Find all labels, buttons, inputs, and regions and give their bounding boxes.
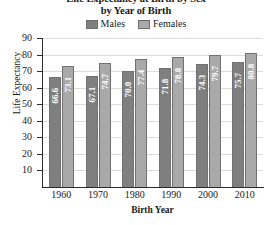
y-tick-label-20: 20 <box>2 149 32 159</box>
x-tick-label-1990: 1990 <box>153 189 190 200</box>
y-tick-50 <box>37 104 42 105</box>
y-tick-30 <box>37 137 42 138</box>
legend-item-males: Males <box>86 19 125 29</box>
bar-males-1990[interactable]: 71.8 <box>159 68 171 187</box>
bar-value-females-1980: 77.4 <box>137 70 146 86</box>
bar-value-females-1960: 73.1 <box>63 77 72 93</box>
x-tick-label-2000: 2000 <box>190 189 227 200</box>
legend-label-males: Males <box>101 19 125 29</box>
bar-group-1980: 70.077.4 <box>116 38 153 187</box>
bar-males-1980[interactable]: 70.0 <box>122 71 134 187</box>
bar-value-females-1990: 78.8 <box>173 67 182 83</box>
y-tick-label-10: 10 <box>2 165 32 175</box>
bar-males-1970[interactable]: 67.1 <box>86 76 98 187</box>
chart-title-line2: by Year of Birth <box>0 5 272 17</box>
legend-swatch-males <box>86 20 98 29</box>
bar-males-2000[interactable]: 74.3 <box>196 64 208 187</box>
chart-title: Life Expectancy at Birth by Sex by Year … <box>0 0 272 16</box>
bar-value-males-2010: 75.7 <box>234 72 243 88</box>
bar-group-1990: 71.878.8 <box>153 38 190 187</box>
bar-value-males-1970: 67.1 <box>87 87 96 103</box>
bar-group-1970: 67.174.7 <box>80 38 117 187</box>
x-tick-label-1980: 1980 <box>116 189 153 200</box>
y-tick-60 <box>37 88 42 89</box>
bar-females-1990[interactable]: 78.8 <box>172 57 184 187</box>
legend-swatch-females <box>138 20 150 29</box>
x-axis-title: Birth Year <box>42 205 263 215</box>
bar-value-males-1960: 66.6 <box>50 87 59 103</box>
bar-value-females-2010: 80.8 <box>247 64 256 80</box>
bar-females-1960[interactable]: 73.1 <box>62 66 74 187</box>
y-tick-70 <box>37 71 42 72</box>
y-tick-90 <box>37 38 42 39</box>
x-axis-labels: 196019701980199020002010 <box>43 189 263 200</box>
bar-females-2010[interactable]: 80.8 <box>245 53 257 187</box>
bar-males-2010[interactable]: 75.7 <box>232 62 244 187</box>
bar-group-2000: 74.379.7 <box>190 38 227 187</box>
y-tick-80 <box>37 55 42 56</box>
x-tick-label-1970: 1970 <box>80 189 117 200</box>
y-axis-title: Life Expectancy <box>12 28 22 138</box>
bar-females-2000[interactable]: 79.7 <box>209 55 221 187</box>
bar-groups: 66.673.167.174.770.077.471.878.874.379.7… <box>43 38 263 187</box>
x-axis-line <box>42 187 264 188</box>
y-tick-10 <box>37 170 42 171</box>
x-tick-label-2010: 2010 <box>226 189 263 200</box>
bar-value-males-1990: 71.8 <box>160 79 169 95</box>
legend-label-females: Females <box>153 19 186 29</box>
bar-group-2010: 75.780.8 <box>226 38 263 187</box>
y-tick-20 <box>37 154 42 155</box>
bar-value-males-2000: 74.3 <box>197 75 206 91</box>
bar-value-females-2000: 79.7 <box>210 66 219 82</box>
bar-value-females-1970: 74.7 <box>100 74 109 90</box>
x-tick-label-1960: 1960 <box>43 189 80 200</box>
bar-females-1970[interactable]: 74.7 <box>99 63 111 187</box>
legend-item-females: Females <box>138 19 186 29</box>
bar-females-1980[interactable]: 77.4 <box>135 59 147 187</box>
bar-males-1960[interactable]: 66.6 <box>49 77 61 187</box>
bar-group-1960: 66.673.1 <box>43 38 80 187</box>
y-tick-40 <box>37 121 42 122</box>
bar-value-males-1980: 70.0 <box>124 82 133 98</box>
chart-legend: Males Females <box>0 19 272 29</box>
